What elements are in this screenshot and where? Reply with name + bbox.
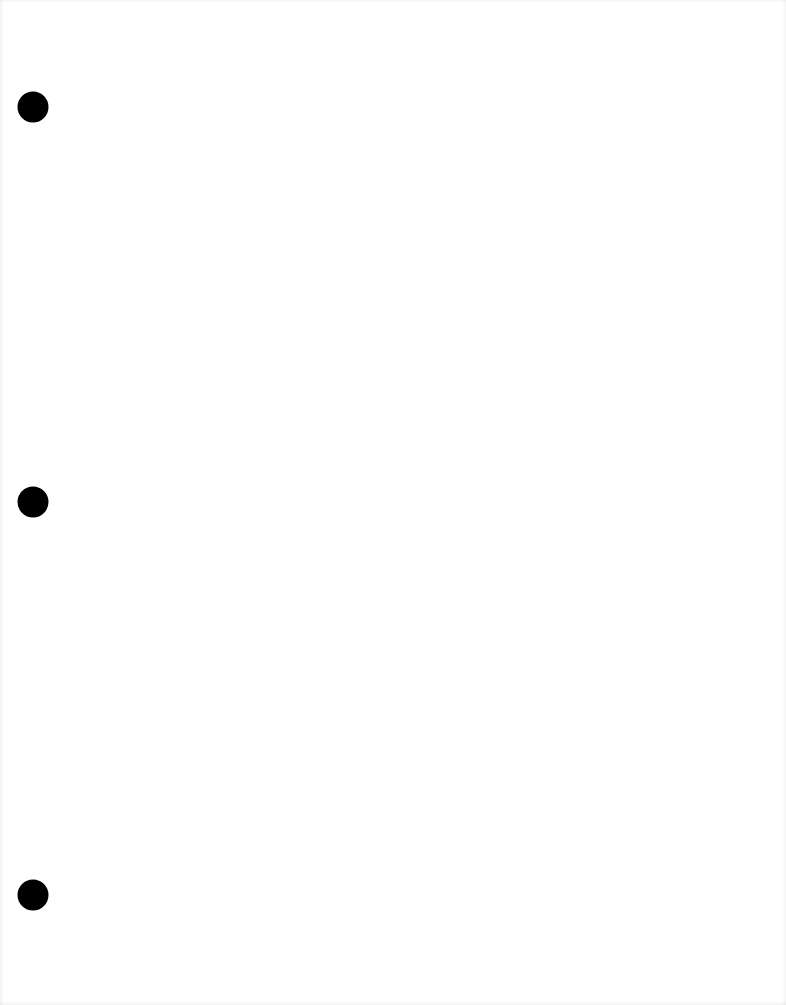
punch-hole-bottom bbox=[18, 880, 49, 911]
punch-hole-middle bbox=[18, 487, 49, 518]
blank-paper-sheet bbox=[0, 0, 786, 1005]
punch-hole-top bbox=[18, 92, 49, 123]
